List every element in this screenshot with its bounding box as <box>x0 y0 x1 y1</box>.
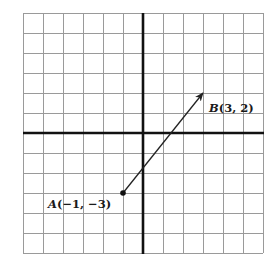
point-label-a: A(−1, −3) <box>48 199 111 211</box>
axes <box>23 13 264 254</box>
point-coords-b: (3, 2) <box>219 101 254 115</box>
vector-ab <box>120 93 203 196</box>
coordinate-plane <box>0 0 275 266</box>
point-coords-a: (−1, −3) <box>57 197 111 211</box>
point-name-b: B <box>209 101 219 115</box>
point-a-dot <box>120 190 126 196</box>
point-name-a: A <box>48 197 57 211</box>
point-label-b: B(3, 2) <box>209 103 254 115</box>
